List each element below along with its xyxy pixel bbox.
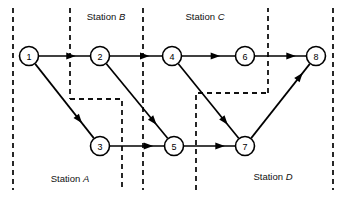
node-label: 4 (169, 52, 174, 62)
node-label: 3 (97, 142, 102, 152)
edge-4-to-7 (178, 64, 238, 138)
node-7[interactable]: 7 (236, 137, 255, 156)
arrowhead-icon (140, 53, 150, 60)
arrowhead-icon (286, 53, 296, 60)
station-labels-layer: Station AStation BStation CStation D (51, 11, 293, 184)
node-8[interactable]: 8 (307, 47, 326, 66)
arrowhead-icon (211, 53, 221, 60)
edge-2-to-5 (106, 64, 167, 139)
edge-line (178, 64, 238, 138)
station-c-label: Station C (185, 11, 224, 22)
arrowhead-icon (144, 143, 154, 150)
station-network-figure: 12345678 Station AStation BStation CStat… (0, 0, 345, 197)
edge-1-to-2 (39, 53, 90, 60)
node-4[interactable]: 4 (163, 47, 182, 66)
edge-7-to-8 (251, 64, 310, 138)
edge-3-to-5 (110, 143, 164, 150)
edge-5-to-7 (184, 143, 235, 150)
node-label: 8 (313, 52, 318, 62)
node-label: 1 (26, 52, 31, 62)
arrowhead-icon (215, 143, 225, 150)
edges-layer (35, 53, 310, 150)
node-6[interactable]: 6 (236, 47, 255, 66)
edge-2-to-4 (110, 53, 162, 60)
station-b-label: Station B (87, 11, 126, 22)
node-5[interactable]: 5 (165, 137, 184, 156)
station-d-label: Station D (253, 171, 292, 182)
station-a-label: Station A (51, 173, 90, 184)
node-2[interactable]: 2 (91, 47, 110, 66)
node-label: 7 (242, 142, 247, 152)
edge-4-to-6 (182, 53, 235, 60)
station-boundaries (13, 8, 333, 190)
diagram-canvas: 12345678 Station AStation BStation CStat… (0, 0, 345, 197)
edge-6-to-8 (255, 53, 306, 60)
node-3[interactable]: 3 (91, 137, 110, 156)
node-label: 5 (171, 142, 176, 152)
node-1[interactable]: 1 (20, 47, 39, 66)
arrowhead-icon (66, 53, 76, 60)
node-label: 6 (242, 52, 247, 62)
edge-line (35, 64, 94, 138)
edge-line (106, 64, 167, 139)
edge-1-to-3 (35, 64, 94, 138)
node-label: 2 (97, 52, 102, 62)
